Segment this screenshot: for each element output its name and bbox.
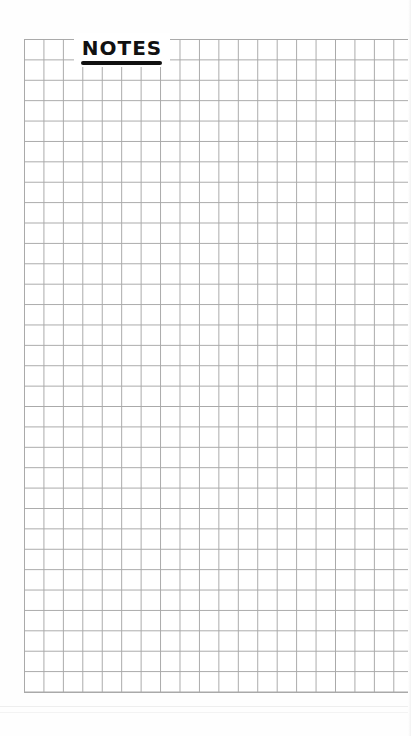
bottom-divider — [0, 706, 411, 707]
bottom-divider-secondary — [0, 712, 411, 713]
page-title: NOTES — [81, 37, 163, 59]
grid-paper-area[interactable] — [24, 39, 411, 693]
notes-page: NOTES — [0, 0, 411, 736]
title-underline — [81, 61, 162, 65]
